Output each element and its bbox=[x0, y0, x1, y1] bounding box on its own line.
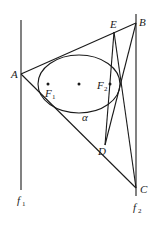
label-f1-sub: 1 bbox=[22, 200, 26, 208]
focus-f2-dot bbox=[109, 83, 112, 86]
label-F2-sub: 2 bbox=[104, 85, 108, 93]
label-F1-sub: 1 bbox=[52, 93, 56, 101]
line-EC bbox=[114, 32, 136, 188]
label-C: C bbox=[140, 183, 148, 195]
label-E: E bbox=[109, 18, 117, 30]
focus-f1-dot bbox=[47, 83, 50, 86]
label-F2: F bbox=[96, 79, 104, 91]
label-A: A bbox=[10, 68, 18, 80]
label-alpha: α bbox=[82, 111, 88, 123]
diagram-canvas: A B E C D F 1 F 2 α f 1 f 2 bbox=[0, 0, 160, 229]
label-F1: F bbox=[44, 87, 52, 99]
center-dot bbox=[78, 83, 81, 86]
label-f2-sub: 2 bbox=[138, 207, 142, 215]
label-D: D bbox=[97, 145, 106, 157]
label-B: B bbox=[139, 16, 146, 28]
